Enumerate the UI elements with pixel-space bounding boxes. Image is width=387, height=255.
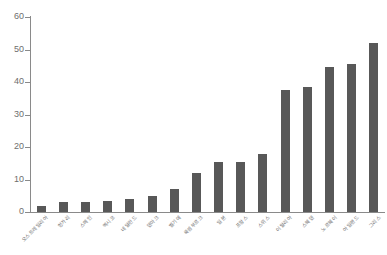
bar <box>148 196 157 212</box>
bar <box>81 202 90 212</box>
bars-group <box>30 17 385 212</box>
bar <box>37 206 46 213</box>
bar <box>236 162 245 212</box>
y-axis-tick-label: 20 <box>0 142 24 151</box>
bar <box>303 87 312 212</box>
bar <box>170 189 179 212</box>
bar <box>59 202 68 212</box>
bar <box>192 173 201 212</box>
y-axis-tick-label: 50 <box>0 45 24 54</box>
bar <box>103 201 112 212</box>
y-axis-tick-label: 0 <box>0 207 24 216</box>
bar-chart: 0102030405060 오스트레일리아헝가리스페인멕시코네덜란드덴마크벨기에… <box>0 0 387 255</box>
y-axis-tick <box>25 212 31 213</box>
y-axis-tick-label: 40 <box>0 77 24 86</box>
x-axis-labels: 오스트레일리아헝가리스페인멕시코네덜란드덴마크벨기에룩셈부르크일본프랑스스위스이… <box>30 214 385 255</box>
bar <box>369 43 378 212</box>
y-axis-tick-label: 10 <box>0 175 24 184</box>
bar <box>214 162 223 212</box>
bar <box>258 154 267 213</box>
y-axis-tick-label: 60 <box>0 12 24 21</box>
bar <box>281 90 290 212</box>
bar <box>125 199 134 212</box>
y-axis-tick-label: 30 <box>0 110 24 119</box>
bar <box>347 64 356 212</box>
bar <box>325 67 334 212</box>
x-axis-line <box>30 212 385 213</box>
